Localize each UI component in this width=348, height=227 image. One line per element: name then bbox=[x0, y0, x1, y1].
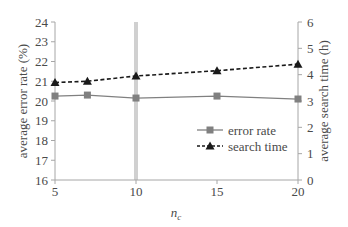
y2-tick-label: 5 bbox=[307, 41, 314, 56]
series-group bbox=[51, 60, 303, 103]
x-axis-label: nc bbox=[171, 205, 182, 222]
square-marker-icon bbox=[214, 93, 221, 100]
x-tick-label: 20 bbox=[292, 184, 305, 199]
series-error-rate bbox=[52, 92, 302, 103]
y-tick-label: 23 bbox=[35, 34, 48, 49]
y-tick-label: 16 bbox=[35, 173, 49, 188]
y2-tick-label: 4 bbox=[307, 67, 314, 82]
triangle-marker-icon bbox=[132, 71, 141, 79]
square-marker-icon bbox=[207, 127, 214, 134]
axes bbox=[51, 22, 302, 184]
legend-label: search time bbox=[228, 139, 288, 154]
square-marker-icon bbox=[84, 92, 91, 99]
y2-tick-label: 1 bbox=[307, 146, 314, 161]
chart: 16171819202122232401234565101520 error r… bbox=[0, 0, 348, 227]
x-tick-label: 15 bbox=[211, 184, 224, 199]
x-axis-label-sub: c bbox=[177, 212, 181, 222]
y-tick-label: 20 bbox=[35, 94, 48, 109]
legend-item: search time bbox=[197, 139, 288, 154]
y2-tick-label: 3 bbox=[307, 94, 314, 109]
y-tick-label: 17 bbox=[35, 153, 49, 168]
y2-tick-label: 6 bbox=[307, 15, 314, 30]
series-search-time bbox=[51, 60, 303, 86]
x-tick-label: 5 bbox=[52, 184, 59, 199]
square-marker-icon bbox=[133, 95, 140, 102]
y-axis-label: average error rate (%) bbox=[15, 44, 30, 158]
square-marker-icon bbox=[295, 96, 302, 103]
y2-axis-label: average search time (h) bbox=[316, 40, 331, 162]
series-line bbox=[55, 64, 298, 82]
tick-labels: 16171819202122232401234565101520 bbox=[35, 15, 314, 200]
chart-svg: 16171819202122232401234565101520 error r… bbox=[0, 0, 348, 227]
square-marker-icon bbox=[52, 93, 59, 100]
series-line bbox=[55, 95, 298, 99]
legend-label: error rate bbox=[228, 123, 276, 138]
x-tick-label: 10 bbox=[130, 184, 143, 199]
y-tick-label: 24 bbox=[35, 15, 49, 30]
y-tick-label: 19 bbox=[35, 113, 48, 128]
legend: error ratesearch time bbox=[197, 123, 288, 154]
y-tick-label: 21 bbox=[35, 74, 48, 89]
y2-tick-label: 2 bbox=[307, 120, 314, 135]
legend-item: error rate bbox=[197, 123, 276, 138]
y-tick-label: 18 bbox=[35, 133, 48, 148]
y2-tick-label: 0 bbox=[307, 173, 314, 188]
y-tick-label: 22 bbox=[35, 54, 48, 69]
